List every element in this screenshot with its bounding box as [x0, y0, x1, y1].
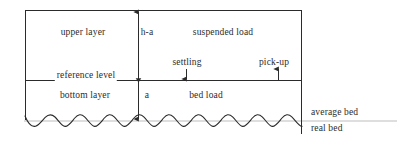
diagram-root: upper layer h-a suspended load settling … — [0, 0, 403, 141]
label-pick-up: pick-up — [259, 58, 289, 68]
label-bottom-layer: bottom layer — [60, 91, 110, 101]
label-average-bed: average bed — [311, 108, 358, 118]
label-upper-layer-text: upper layer — [61, 28, 106, 38]
label-suspended-load: suspended load — [193, 28, 253, 38]
label-real-bed: real bed — [311, 124, 343, 134]
label-reference-level: reference level — [55, 71, 117, 81]
label-reference-height: a — [145, 91, 149, 101]
label-height-above-reference: h-a — [141, 28, 154, 38]
label-settling: settling — [172, 58, 201, 68]
label-bed-load: bed load — [189, 91, 223, 101]
